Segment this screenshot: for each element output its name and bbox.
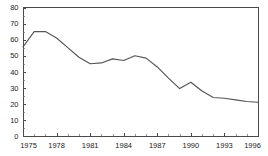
- plot-frame: [23, 8, 258, 137]
- y-axis-tick-labels: 01020304050607080: [10, 3, 18, 141]
- x-tick-label: 1996: [244, 141, 261, 150]
- y-tick-label: 10: [10, 116, 18, 125]
- series-line-1: [23, 32, 258, 103]
- x-tick-label: 1975: [20, 141, 37, 150]
- y-tick-label: 40: [10, 68, 18, 77]
- y-tick-label: 80: [10, 3, 18, 12]
- x-tick-label: 1990: [183, 141, 200, 150]
- y-tick-label: 20: [10, 100, 18, 109]
- x-tick-label: 1978: [48, 141, 65, 150]
- y-tick-label: 0: [14, 132, 18, 141]
- x-axis-tick-labels: 19751978198119841987199019931996: [20, 141, 261, 150]
- x-tick-label: 1984: [115, 141, 132, 150]
- x-tick-label: 1981: [82, 141, 99, 150]
- y-tick-label: 70: [10, 19, 18, 28]
- y-tick-label: 50: [10, 51, 18, 60]
- data-series-line: [23, 32, 258, 103]
- x-tick-label: 1993: [216, 141, 233, 150]
- x-tick-label: 1987: [149, 141, 166, 150]
- chart-canvas: 01020304050607080 1975197819811984198719…: [0, 0, 268, 156]
- line-chart: 01020304050607080 1975197819811984198719…: [0, 0, 268, 156]
- plot-border: [23, 8, 258, 137]
- y-tick-label: 60: [10, 35, 18, 44]
- y-tick-label: 30: [10, 84, 18, 93]
